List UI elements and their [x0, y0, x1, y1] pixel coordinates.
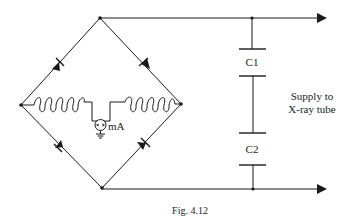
top-output-arrow-icon	[317, 13, 327, 23]
bottom-output-arrow-icon	[317, 184, 327, 194]
c1-label: C1	[246, 56, 259, 68]
circuit-diagram: mA C1 C2 Supply to X-ray tube Fig. 4.12	[0, 0, 353, 223]
bridge-wire-top-right	[100, 18, 181, 104]
diode-top-right	[139, 58, 150, 69]
diode-bottom-left	[54, 140, 63, 152]
coil-left	[21, 98, 97, 122]
c2-label: C2	[246, 143, 259, 155]
ground-icon	[96, 134, 105, 138]
bridge-wire-top-left	[21, 18, 100, 105]
output-label-line1: Supply to	[291, 90, 334, 102]
coil-right	[104, 97, 181, 121]
milliammeter	[95, 120, 106, 135]
output-label-line2: X-ray tube	[288, 103, 335, 115]
meter-label: mA	[108, 120, 125, 132]
figure-caption: Fig. 4.12	[172, 205, 208, 216]
